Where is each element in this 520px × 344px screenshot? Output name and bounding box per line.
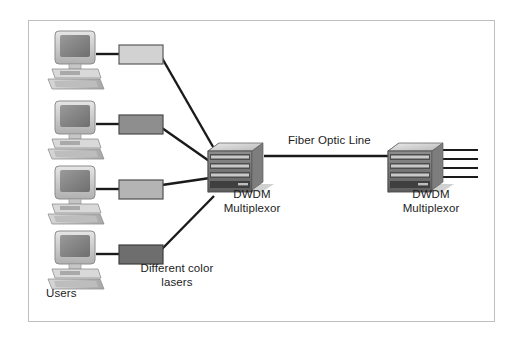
desktop-computer-icon <box>48 101 104 159</box>
rack-chassis-icon <box>208 143 274 192</box>
link-laser3-mux <box>162 178 210 185</box>
desktop-computer-icon <box>48 166 104 224</box>
label-different-color-lasers: Different color lasers <box>131 262 223 289</box>
laser-transmitter-icon <box>119 180 163 199</box>
label-dwdm-multiplexor-right: DWDM Multiplexor <box>385 188 477 215</box>
laser-1 <box>119 45 163 64</box>
label-fiber-optic-line: Fiber Optic Line <box>288 134 371 148</box>
label-dwdm-multiplexor-left: DWDM Multiplexor <box>206 188 298 215</box>
link-laser1-mux <box>162 58 216 152</box>
workstation-3 <box>48 166 104 224</box>
diagram-canvas: Users Different color lasers Fiber Optic… <box>0 0 520 344</box>
label-users: Users <box>46 287 77 301</box>
workstation-4 <box>48 231 104 289</box>
desktop-computer-icon <box>48 31 104 89</box>
workstation-1 <box>48 31 104 89</box>
diagram-graphics <box>0 0 520 344</box>
laser-3 <box>119 180 163 199</box>
desktop-computer-icon <box>48 231 104 289</box>
laser-transmitter-icon <box>119 115 163 134</box>
dwdm-multiplexor-left <box>208 143 274 192</box>
laser-2 <box>119 115 163 134</box>
workstation-2 <box>48 101 104 159</box>
laser-transmitter-icon <box>119 45 163 64</box>
